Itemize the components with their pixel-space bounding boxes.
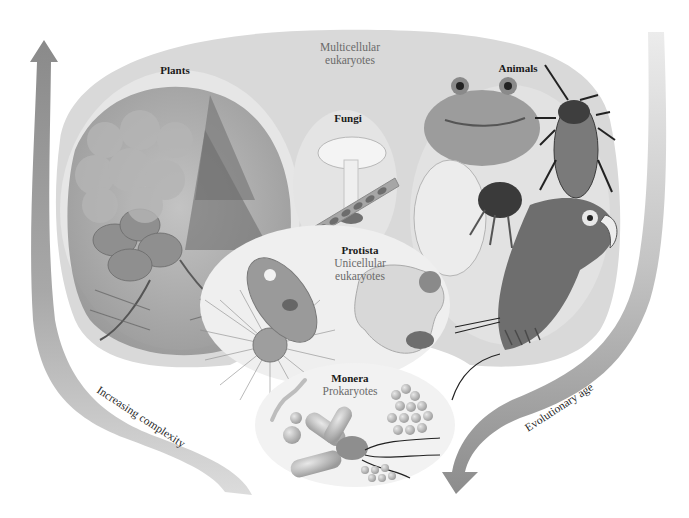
multicellular-eukaryotes-label: Multicellular eukaryotes xyxy=(290,41,410,67)
kingdom-title-plants: Plants xyxy=(145,64,205,77)
kingdom-title-fungi: Fungi xyxy=(318,112,378,125)
kingdom-title-monera: Monera xyxy=(300,372,400,385)
monera-subtitle: Prokaryotes xyxy=(300,385,400,398)
kingdom-title-protista: Protista xyxy=(310,244,410,257)
kingdom-label-protista: Protista Unicellular eukaryotes xyxy=(310,244,410,283)
five-kingdoms-diagram: Increasing complexity Evolutionary age M… xyxy=(0,0,689,518)
group-label-line1: Multicellular xyxy=(290,41,410,54)
kingdom-title-animals: Animals xyxy=(483,62,553,75)
protista-subtitle-line1: Unicellular xyxy=(310,257,410,270)
group-label-line2: eukaryotes xyxy=(290,54,410,67)
protista-subtitle-line2: eukaryotes xyxy=(310,270,410,283)
kingdom-label-monera: Monera Prokaryotes xyxy=(300,372,400,398)
